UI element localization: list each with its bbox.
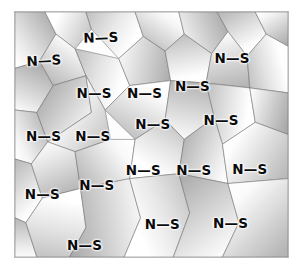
domain-orientation-label: N—S bbox=[67, 239, 102, 253]
magnetic-domain-frame: N—SN—SN—SN—SN—SN—SN—SN—SN—SN—SN—SN—SN—SN… bbox=[14, 11, 289, 258]
domain-orientation-label: N—S bbox=[126, 165, 161, 179]
domain-orientation-label: N—S bbox=[127, 87, 162, 101]
domain-orientation-label: N—S bbox=[25, 188, 60, 202]
domain-orientation-label: N—S bbox=[75, 130, 110, 144]
domain-orientation-label: N—S bbox=[83, 30, 119, 45]
domain-orientation-label: N—S bbox=[145, 218, 180, 232]
domain-orientation-label: N—S bbox=[135, 118, 170, 132]
domain-orientation-label: N—S bbox=[213, 217, 248, 231]
domain-orientation-label: N—S bbox=[175, 80, 210, 94]
domain-orientation-label: N—S bbox=[77, 87, 112, 101]
domain-orientation-label: N—S bbox=[204, 114, 239, 128]
domain-orientation-label: N—S bbox=[79, 179, 114, 193]
figure-root: N—SN—SN—SN—SN—SN—SN—SN—SN—SN—SN—SN—SN—SN… bbox=[0, 0, 303, 275]
domain-orientation-label: N—S bbox=[176, 165, 211, 179]
domain-orientation-label: N—S bbox=[26, 53, 62, 68]
domain-label-layer: N—SN—SN—SN—SN—SN—SN—SN—SN—SN—SN—SN—SN—SN… bbox=[15, 12, 288, 257]
domain-orientation-label: N—S bbox=[232, 163, 267, 177]
domain-orientation-label: N—S bbox=[26, 130, 61, 144]
domain-orientation-label: N—S bbox=[214, 52, 249, 66]
